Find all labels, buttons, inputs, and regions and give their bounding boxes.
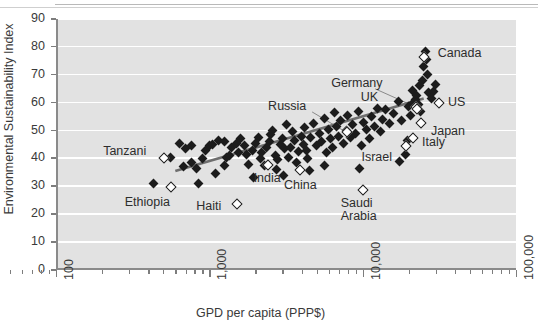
y-tick-mark — [51, 185, 56, 187]
x-tick-mark-minor — [202, 270, 203, 274]
x-tick-mark-minor — [356, 270, 357, 274]
x-tick-label: 10,000 — [369, 242, 383, 280]
x-tick-mark-minor — [436, 270, 437, 274]
x-tick-mark-minor — [509, 270, 510, 274]
point-label-germany: Germany — [331, 77, 382, 90]
x-tick-mark-major — [516, 270, 517, 277]
y-tick-mark — [51, 157, 56, 159]
x-tick-mark-major — [56, 270, 57, 277]
page-rule-secondary — [55, 4, 538, 5]
x-tick-mark-minor — [329, 270, 330, 274]
x-tick-mark-minor — [339, 270, 340, 274]
x-tick-mark-minor — [455, 270, 456, 274]
x-tick-mark-minor — [302, 270, 303, 274]
page-rule-top — [0, 7, 538, 8]
x-tick-mark-minor — [41, 270, 42, 274]
x-tick-mark-minor — [129, 270, 130, 274]
point-label-haiti: Haiti — [196, 200, 221, 213]
y-tick-mark — [51, 46, 56, 48]
gridline — [58, 18, 516, 20]
x-tick-mark-minor — [186, 270, 187, 274]
x-tick-label: 1,000 — [215, 249, 229, 280]
x-tick-mark-minor — [492, 270, 493, 274]
point-label-india: India — [254, 172, 281, 185]
x-tick-mark-major — [363, 270, 364, 277]
x-tick-mark-minor — [501, 270, 502, 274]
y-tick-mark — [51, 241, 56, 243]
x-tick-mark-minor — [282, 270, 283, 274]
x-axis-title: GPD per capita (PPP$) — [196, 306, 325, 320]
point-label-tanzani: Tanzani — [103, 145, 146, 158]
x-tick-mark-minor — [32, 270, 33, 274]
x-tick-mark-minor — [10, 270, 11, 274]
y-tick-mark — [51, 213, 56, 215]
y-tick-mark — [51, 102, 56, 104]
point-label-us: US — [448, 96, 465, 109]
x-tick-mark-minor — [255, 270, 256, 274]
point-label-china: China — [284, 179, 317, 192]
gridline — [58, 213, 516, 215]
x-tick-mark-minor — [482, 270, 483, 274]
x-tick-mark-minor — [348, 270, 349, 274]
x-tick-mark-minor — [194, 270, 195, 274]
x-tick-mark-major — [209, 270, 210, 277]
point-label-uk: UK — [361, 91, 378, 104]
y-tick-mark — [51, 74, 56, 76]
y-tick-mark — [51, 130, 56, 132]
point-label-canada: Canada — [438, 47, 482, 60]
point-label-japan: Japan — [431, 125, 465, 138]
point-label-russia: Russia — [268, 100, 306, 113]
chart-figure: 0102030405060708090 1001,00010,000100,00… — [0, 0, 538, 330]
x-tick-mark-minor — [102, 270, 103, 274]
x-tick-mark-minor — [22, 270, 23, 274]
x-tick-label: 100,000 — [522, 235, 536, 280]
x-tick-mark-minor — [148, 270, 149, 274]
gridline — [58, 241, 516, 243]
gridline — [58, 74, 516, 76]
x-tick-mark-minor — [49, 270, 50, 274]
x-tick-mark-minor — [317, 270, 318, 274]
point-label-saudi-arabia: SaudiArabia — [341, 197, 377, 223]
x-tick-mark-minor — [409, 270, 410, 274]
x-tick-mark-minor — [175, 270, 176, 274]
x-tick-mark-minor — [163, 270, 164, 274]
x-tick-label: 100 — [62, 259, 76, 280]
x-tick-mark-minor — [470, 270, 471, 274]
y-axis-title: Environmental Sustainability Index — [2, 0, 16, 244]
point-label-israel: Israel — [361, 151, 392, 164]
point-label-ethiopia: Ethiopia — [125, 196, 170, 209]
y-tick-mark — [51, 18, 56, 20]
